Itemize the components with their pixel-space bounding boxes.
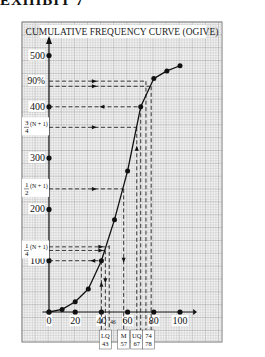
graph-paper (22, 22, 222, 342)
data-point (99, 258, 104, 263)
lq-label: LQ43 (99, 330, 111, 349)
uq-label: UQ67 (131, 330, 143, 349)
data-point (178, 63, 183, 68)
y-annotation-label: 90% (28, 76, 46, 86)
data-point (138, 104, 143, 109)
svg-text:43: 43 (102, 340, 109, 347)
data-point (47, 310, 52, 315)
chart-title: CUMULATIVE FREQUENCY CURVE (OGIVE) (26, 27, 219, 38)
svg-text:74: 74 (145, 332, 152, 339)
svg-text:2: 2 (25, 189, 29, 197)
svg-text:(N + 1): (N + 1) (30, 244, 48, 251)
svg-text:1: 1 (25, 181, 29, 189)
data-point (125, 168, 130, 173)
data-point (73, 299, 78, 304)
svg-text:4: 4 (25, 250, 29, 258)
fraction-label: 14(N + 1) (22, 240, 49, 258)
svg-text:(N + 1): (N + 1) (30, 183, 48, 190)
x-tick-label: 20 (70, 315, 80, 326)
svg-text:78: 78 (145, 340, 152, 347)
data-point (164, 68, 169, 73)
y-tick-label: 300 (30, 152, 45, 163)
svg-text:57: 57 (120, 340, 127, 347)
data-point (151, 76, 156, 81)
fraction-label: 34(N + 1) (22, 117, 49, 135)
svg-text:(N + 1): (N + 1) (30, 121, 48, 128)
svg-text:4: 4 (25, 127, 29, 135)
x-tick-label: 80 (149, 315, 159, 326)
svg-text:67: 67 (134, 340, 141, 347)
data-point (112, 217, 117, 222)
svg-text:3: 3 (25, 119, 29, 127)
y-tick-label: 400 (30, 101, 45, 112)
svg-text:1: 1 (25, 242, 29, 250)
ogive-chart: CUMULATIVE FREQUENCY CURVE (OGIVE)020406… (0, 0, 265, 357)
svg-text:M: M (121, 332, 127, 339)
svg-text:UQ: UQ (132, 332, 142, 339)
percentile-label: 7478 (143, 330, 155, 349)
median-label: M57 (118, 330, 130, 349)
x-tick-label: 100 (173, 315, 188, 326)
x-tick-label: 0 (47, 315, 52, 326)
fraction-label: 12(N + 1) (22, 179, 49, 197)
svg-text:LQ: LQ (101, 332, 110, 339)
y-tick-label: 200 (30, 203, 45, 214)
data-point (60, 307, 65, 312)
x-annotation-46: 46 (110, 319, 116, 325)
data-point (86, 286, 91, 291)
y-tick-label: 500 (30, 50, 45, 61)
